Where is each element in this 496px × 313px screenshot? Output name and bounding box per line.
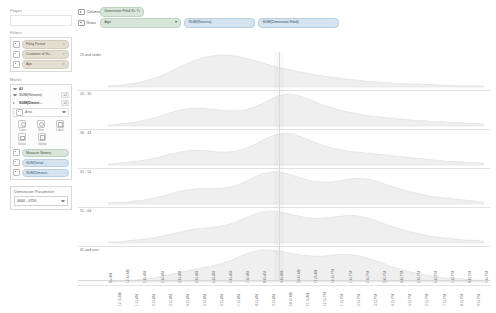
detail-icon xyxy=(18,133,26,141)
x-tick-label: 5:15 AM xyxy=(203,294,207,306)
encoding-size[interactable]: Size xyxy=(34,120,48,133)
marks-pill-row[interactable]: Measure Names xyxy=(13,149,69,158)
x-tick-label: 11:15 AM xyxy=(306,293,310,306)
x-tick-label: 6:15 PM xyxy=(425,294,429,306)
x-tick-label: 4:45 AM xyxy=(195,271,199,283)
x-tick-label: 9:15 PM xyxy=(477,294,481,306)
chevron-down-icon: ▾ xyxy=(63,51,65,58)
x-tick-label: 6:45 PM xyxy=(434,271,438,283)
marks-pill-row[interactable]: SUM(Dimensi.. xyxy=(13,169,69,178)
series-label: 25 and under xyxy=(80,53,101,57)
x-tick-label: 10:45 AM xyxy=(297,270,301,283)
x-tick-label: 4:15 PM xyxy=(391,294,395,306)
series-band[interactable]: 26 - 35 xyxy=(78,91,490,130)
x-tick-label: 9:15 AM xyxy=(272,294,276,306)
pages-title: Pages xyxy=(10,8,72,13)
series-band[interactable]: 45 - 54 xyxy=(78,169,490,208)
detail-icon xyxy=(13,149,20,156)
encoding-detail[interactable]: Detail xyxy=(15,133,29,146)
filter-pill-customer[interactable]: Customer of Su.. ▾ xyxy=(22,50,69,59)
x-tick-label: 1:15 AM xyxy=(135,294,139,306)
x-tick-label: 3:15 PM xyxy=(374,294,378,306)
x-tick-label: 2:15 PM xyxy=(357,294,361,306)
encoding-label: Size xyxy=(38,128,44,132)
series-area xyxy=(78,130,490,168)
mark-type-selector[interactable]: Area xyxy=(13,108,69,117)
x-tick-label: 3:45 PM xyxy=(383,271,387,283)
series-area xyxy=(78,91,490,129)
parameter-card: Dimension Parameter 0600 - 0759 xyxy=(10,186,72,210)
parameter-value: 0600 - 0759 xyxy=(17,199,36,203)
marks-group-dimension[interactable]: SUM(Dimen... a2 xyxy=(13,100,69,106)
filter-pill-age[interactable]: Age ▾ xyxy=(22,60,69,69)
columns-pill-dimension-filed[interactable]: Dimension Filed Sr. Ti xyxy=(100,7,144,17)
parameter-select[interactable]: 0600 - 0759 xyxy=(14,196,68,206)
marks-pill-row[interactable]: SUM(Detail .. xyxy=(13,159,69,168)
marks-group-label: SUM(Returns) xyxy=(19,93,59,97)
viz-canvas: 25 and under26 - 3536 - 4445 - 5455 - 64… xyxy=(78,30,490,305)
rows-drop-zone[interactable]: Age ▾ SUM(Returns) SUM(Dimension Filed) xyxy=(100,18,490,28)
rows-shelf[interactable]: Rows Age ▾ SUM(Returns) SUM(Dimension Fi… xyxy=(78,19,490,27)
chevron-down-icon xyxy=(61,200,65,202)
x-tick-label: 7:45 PM xyxy=(451,271,455,283)
marks-pill-list: Measure Names SUM(Detail .. SUM(Dimensi.… xyxy=(13,149,69,178)
encoding-label-btn[interactable]: Label xyxy=(53,120,67,133)
encoding-label: Label xyxy=(56,128,63,132)
marks-pill-label: SUM(Dimensi.. xyxy=(26,170,49,177)
series-area xyxy=(78,52,490,90)
marks-group-returns[interactable]: SUM(Returns) a1 xyxy=(13,92,69,98)
filter-row[interactable]: Filing Period ▾ xyxy=(13,40,69,49)
rows-icon xyxy=(78,20,85,27)
columns-shelf[interactable]: Columns Dimension Filed Sr. Ti xyxy=(78,8,490,16)
filter-pill-label: Age xyxy=(26,61,32,68)
series-label: 36 - 44 xyxy=(80,131,91,135)
marks-group-all[interactable]: All xyxy=(13,87,69,91)
columns-drop-zone[interactable]: Dimension Filed Sr. Ti xyxy=(100,7,490,17)
series-area xyxy=(78,208,490,246)
series-label: 26 - 35 xyxy=(80,92,91,96)
encoding-color[interactable]: Color xyxy=(15,120,29,133)
pages-drop-zone[interactable] xyxy=(10,15,72,26)
marks-pill-detail[interactable]: SUM(Detail .. xyxy=(22,159,69,168)
left-sidebar: Pages Filters Filing Period ▾ Customer o… xyxy=(10,8,72,210)
series-band[interactable]: 36 - 44 xyxy=(78,130,490,169)
pill-label: Dimension Filed Sr. Ti xyxy=(105,8,140,16)
marks-body: All SUM(Returns) a1 SUM(Dimen... a2 Area xyxy=(10,84,72,181)
marks-all-label: All xyxy=(19,87,69,91)
small-multiples-plot[interactable]: 25 and under26 - 3536 - 4445 - 5455 - 64… xyxy=(78,52,490,280)
series-label: 45 - 54 xyxy=(80,170,91,174)
series-band[interactable]: 25 and under xyxy=(78,52,490,91)
rows-pill-age[interactable]: Age ▾ xyxy=(100,18,181,28)
parameter-title: Dimension Parameter xyxy=(14,189,68,194)
pill-label: SUM(Returns) xyxy=(189,19,212,27)
filter-row[interactable]: Age ▾ xyxy=(13,60,69,69)
x-tick-label: 12:15 AM xyxy=(118,293,122,306)
x-tick-label: 5:45 AM xyxy=(212,271,216,283)
x-tick-label: 7:45 AM xyxy=(246,271,250,283)
x-tick-label: 7:15 AM xyxy=(237,294,241,306)
rows-label: Rows xyxy=(87,21,97,25)
rows-pill-dimension-filed[interactable]: SUM(Dimension Filed) xyxy=(258,18,339,28)
marks-pill-measure-names[interactable]: Measure Names xyxy=(22,149,69,158)
reference-line xyxy=(279,52,280,280)
mark-type-label: Area xyxy=(25,110,60,114)
x-tick-label: 11:45 AM xyxy=(314,270,318,283)
x-tick-label: 5:15 PM xyxy=(408,294,412,306)
x-tick-label: 3:45 AM xyxy=(178,271,182,283)
axis-rule xyxy=(78,280,490,281)
x-tick-label: 4:45 PM xyxy=(400,271,404,283)
filter-row[interactable]: Customer of Su.. ▾ xyxy=(13,50,69,59)
chevron-down-icon xyxy=(13,94,17,96)
marks-group-label: SUM(Dimen... xyxy=(19,101,59,105)
marks-pill-dimension[interactable]: SUM(Dimensi.. xyxy=(22,169,69,178)
series-band[interactable]: 55 - 64 xyxy=(78,208,490,247)
area-chart-icon xyxy=(16,109,23,116)
rows-pill-returns[interactable]: SUM(Returns) xyxy=(184,18,255,28)
encoding-label: Detail xyxy=(18,142,26,146)
encoding-tooltip[interactable]: Tooltip xyxy=(35,133,49,146)
x-tick-label: 2:45 AM xyxy=(161,271,165,283)
encoding-row-2: Detail Tooltip xyxy=(13,133,69,146)
chevron-down-icon: ▾ xyxy=(63,61,65,68)
x-tick-label: 8:15 PM xyxy=(460,294,464,306)
filter-pill-filing-period[interactable]: Filing Period ▾ xyxy=(22,40,69,49)
